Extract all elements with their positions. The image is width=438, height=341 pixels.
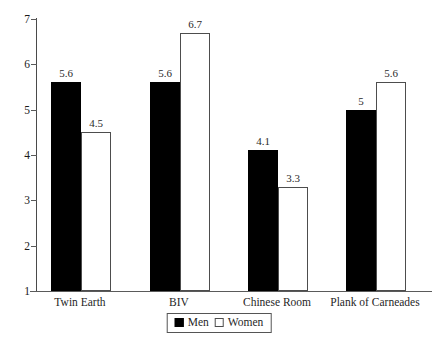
y-tick-mark bbox=[31, 155, 37, 156]
bar-women-1 bbox=[180, 33, 210, 291]
bar-value-label: 5.6 bbox=[368, 68, 414, 79]
legend-item-men: Men bbox=[175, 316, 209, 329]
bar-women-3 bbox=[376, 82, 406, 291]
legend-label-men: Men bbox=[188, 316, 209, 329]
x-axis-label-3: Plank of Carneades bbox=[305, 295, 438, 309]
legend-item-women: Women bbox=[215, 316, 263, 329]
bar-men-3 bbox=[346, 110, 376, 291]
bar-value-label: 4.1 bbox=[240, 136, 286, 147]
y-tick-mark bbox=[31, 291, 37, 292]
y-tick-label: 7 bbox=[18, 13, 30, 25]
y-tick-label: 4 bbox=[18, 149, 30, 161]
y-tick-mark bbox=[31, 200, 37, 201]
y-tick-label: 2 bbox=[18, 240, 30, 252]
bar-value-label: 3.3 bbox=[270, 173, 316, 184]
y-tick-mark bbox=[31, 246, 37, 247]
y-tick-mark bbox=[31, 110, 37, 111]
bar-value-label: 6.7 bbox=[172, 19, 218, 30]
bar-men-1 bbox=[150, 82, 180, 291]
bar-chart: 7654321 5.64.55.66.74.13.355.6 Twin Eart… bbox=[0, 0, 438, 341]
y-tick-mark bbox=[31, 64, 37, 65]
legend-label-women: Women bbox=[228, 316, 263, 329]
y-tick-mark bbox=[31, 19, 37, 20]
x-axis-line bbox=[30, 291, 432, 292]
y-tick-label: 5 bbox=[18, 104, 30, 116]
legend: Men Women bbox=[167, 313, 272, 333]
plot-area: 7654321 5.64.55.66.74.13.355.6 Twin Eart… bbox=[0, 0, 438, 341]
bar-value-label: 4.5 bbox=[73, 118, 119, 129]
y-tick-label: 3 bbox=[18, 194, 30, 206]
bar-men-2 bbox=[248, 150, 278, 291]
bar-women-2 bbox=[278, 187, 308, 291]
bar-women-0 bbox=[81, 132, 111, 291]
y-tick-label: 6 bbox=[18, 58, 30, 70]
legend-swatch-women-icon bbox=[215, 318, 224, 327]
legend-swatch-men-icon bbox=[175, 318, 184, 327]
bar-value-label: 5.6 bbox=[43, 68, 89, 79]
bar-men-0 bbox=[51, 82, 81, 291]
